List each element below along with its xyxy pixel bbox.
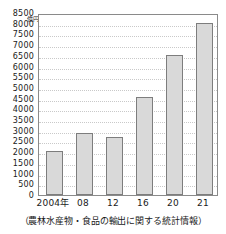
plot-area — [38, 14, 218, 196]
chart-caption: （農林水産物・食品の輸出に関する統計情報） — [0, 215, 226, 227]
bar — [136, 97, 153, 195]
gridline — [39, 111, 217, 112]
gridline — [39, 58, 217, 59]
gridline — [39, 122, 217, 123]
y-axis-tick-label: 6500 — [13, 53, 34, 61]
y-axis-tick-label: 3000 — [13, 128, 34, 136]
y-axis-tick-label: 4000 — [13, 106, 34, 114]
bar — [106, 137, 123, 195]
gridline — [39, 47, 217, 48]
gridline — [39, 69, 217, 70]
y-axis-tick-label: 5500 — [13, 74, 34, 82]
gridline — [39, 133, 217, 134]
y-axis-tick-label: 2000 — [13, 149, 34, 157]
y-axis-tick-label: 7000 — [13, 42, 34, 50]
gridline — [39, 101, 217, 102]
gridline — [39, 26, 217, 27]
gridline — [39, 143, 217, 144]
gridline — [39, 154, 217, 155]
x-axis-tick-label: 21 — [173, 198, 226, 209]
y-axis-tick-label: 5000 — [13, 85, 34, 93]
bar-chart-figure: 8500800075007000650060005500500045004000… — [0, 0, 226, 234]
bar — [76, 133, 93, 195]
gridline — [39, 79, 217, 80]
y-axis-tick-label: 1000 — [13, 171, 34, 179]
gridline — [39, 36, 217, 37]
gridline — [39, 165, 217, 166]
y-axis-tick-label: 500 — [18, 181, 34, 189]
y-axis-tick-label: 4500 — [13, 96, 34, 104]
y-axis-tick-label: 3500 — [13, 117, 34, 125]
y-axis-tick-label: 7500 — [13, 31, 34, 39]
bar — [46, 151, 63, 195]
bar — [196, 23, 213, 195]
x-axis: 2004年0812162021 — [38, 198, 218, 212]
bar — [166, 55, 183, 195]
y-axis-tick-label: 6000 — [13, 64, 34, 72]
gridline — [39, 176, 217, 177]
gridline — [39, 186, 217, 187]
y-axis-tick-label: 2500 — [13, 138, 34, 146]
y-axis-tick-label: 1500 — [13, 160, 34, 168]
gridline — [39, 90, 217, 91]
